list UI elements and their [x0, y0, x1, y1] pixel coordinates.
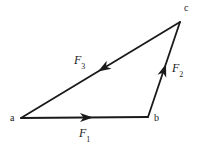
force-label-f1-subscript: 1 — [86, 135, 90, 142]
vertex-label-a: a — [10, 113, 14, 123]
vertex-label-c: c — [184, 3, 188, 13]
force-triangle-figure: a b c F1 F2 F3 — [0, 0, 205, 142]
vertex-label-b: b — [154, 113, 159, 123]
force-label-f2-subscript: 2 — [179, 70, 183, 79]
force-label-f3-subscript: 3 — [81, 62, 85, 71]
force-label-f1: F1 — [79, 127, 90, 142]
force-label-f3: F3 — [74, 54, 85, 69]
arrowhead-f3 — [96, 61, 112, 76]
force-label-f2: F2 — [172, 62, 183, 77]
arrowhead-f2 — [157, 63, 170, 78]
